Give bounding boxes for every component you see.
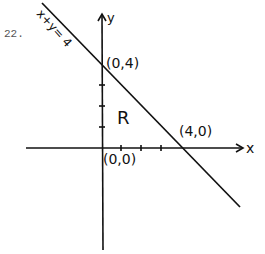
- graph: y x x+y= 4 (0,4) (4,0) (0,0) R: [0, 0, 265, 254]
- line-label: x+y= 4: [34, 7, 75, 50]
- x-intercept-label: (4,0): [179, 123, 212, 139]
- origin-label: (0,0): [103, 151, 136, 167]
- line-x-plus-y-eq-4: [42, 3, 240, 207]
- y-axis-label: y: [107, 10, 115, 25]
- y-intercept-label: (0,4): [106, 55, 139, 71]
- y-axis: [102, 14, 103, 250]
- x-axis-label: x: [246, 140, 254, 156]
- region-label: R: [117, 107, 130, 128]
